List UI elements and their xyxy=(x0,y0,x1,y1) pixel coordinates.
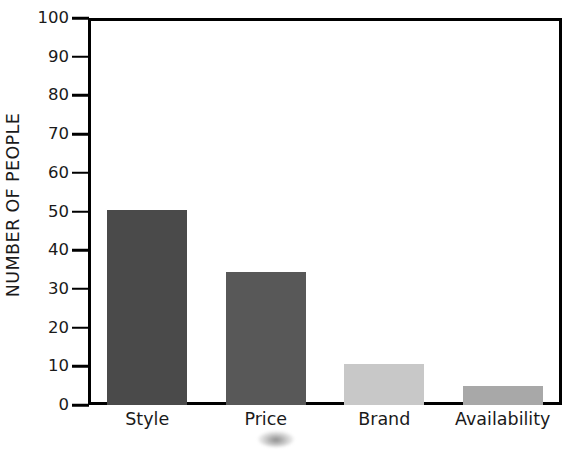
y-axis-tick-label: 50 xyxy=(48,203,69,220)
x-axis-tick-label: Style xyxy=(125,409,169,430)
bar-style xyxy=(107,210,187,405)
y-axis-tick-mark xyxy=(72,55,89,58)
bar-availability xyxy=(463,386,543,405)
y-axis-tick-mark xyxy=(72,365,89,368)
bars-layer xyxy=(88,18,562,405)
bar-chart: NUMBER OF PEOPLE 0102030405060708090100 … xyxy=(0,0,572,452)
y-axis-tick-mark xyxy=(72,404,89,407)
y-axis-tick-label: 100 xyxy=(38,10,70,27)
y-axis-tick-label: 60 xyxy=(48,165,69,182)
y-axis-tick-label: 0 xyxy=(59,397,70,414)
y-axis-tick-label: 40 xyxy=(48,242,69,259)
x-axis-tick-label: Brand xyxy=(358,409,410,430)
y-axis-tick-mark xyxy=(72,94,89,97)
y-axis-title: NUMBER OF PEOPLE xyxy=(0,0,26,410)
x-axis-tick-label: Availability xyxy=(455,409,550,430)
y-axis-title-text: NUMBER OF PEOPLE xyxy=(3,113,23,297)
y-axis-tick-label: 80 xyxy=(48,87,69,104)
bar-brand xyxy=(344,364,424,405)
x-axis-tick-label: Price xyxy=(244,409,287,430)
y-axis-tick-label: 30 xyxy=(48,281,69,298)
y-axis-tick-label: 10 xyxy=(48,358,69,375)
y-axis-tick-label: 90 xyxy=(48,48,69,65)
scan-smudge-artifact xyxy=(258,431,294,447)
y-axis-tick-label: 20 xyxy=(48,319,69,336)
x-axis-tick-labels: StylePriceBrandAvailability xyxy=(88,409,562,441)
y-axis-tick-mark xyxy=(72,133,89,136)
bar-price xyxy=(226,272,306,406)
y-axis-tick-labels: 0102030405060708090100 xyxy=(26,0,72,452)
y-axis-tick-mark xyxy=(72,17,89,20)
y-axis-tick-mark xyxy=(72,210,89,213)
y-axis-tick-mark xyxy=(72,288,89,291)
y-axis-tick-label: 70 xyxy=(48,126,69,143)
y-axis-tick-mark xyxy=(72,249,89,252)
y-axis-tick-mark xyxy=(72,326,89,329)
y-axis-tick-mark xyxy=(72,172,89,175)
